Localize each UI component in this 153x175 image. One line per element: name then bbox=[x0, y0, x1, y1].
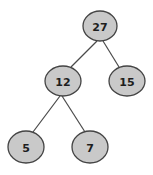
edge-12-7 bbox=[62, 96, 85, 132]
node-label: 15 bbox=[119, 76, 134, 89]
edge-27-12 bbox=[71, 41, 97, 67]
node-label: 27 bbox=[92, 21, 107, 34]
node-15: 15 bbox=[109, 66, 145, 96]
node-5: 5 bbox=[8, 131, 44, 163]
node-12: 12 bbox=[45, 66, 81, 96]
tree-svg: 27 12 15 5 7 bbox=[0, 0, 153, 175]
edge-12-5 bbox=[33, 96, 60, 132]
edge-27-15 bbox=[103, 41, 119, 67]
tree-diagram: 27 12 15 5 7 bbox=[0, 0, 153, 175]
node-label: 5 bbox=[22, 142, 30, 155]
node-label: 7 bbox=[86, 142, 94, 155]
node-7: 7 bbox=[72, 131, 108, 163]
node-27: 27 bbox=[83, 11, 117, 41]
node-label: 12 bbox=[55, 76, 70, 89]
